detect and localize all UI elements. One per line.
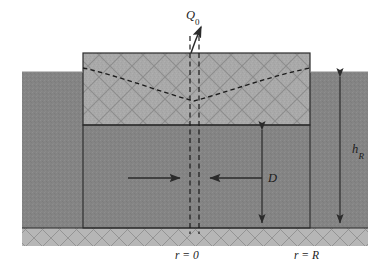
label-discharge-subscript: 0 [195, 17, 200, 27]
bedrock-layer [22, 228, 368, 246]
upper-reservoir-block [83, 53, 310, 125]
cross-section-drawing [0, 0, 391, 273]
label-radius-center: r = 0 [175, 250, 199, 262]
label-discharge-base: Q [186, 8, 195, 22]
label-reservoir-height-hr: hR [352, 143, 364, 159]
label-hr-subscript: R [358, 151, 364, 161]
label-radius-outer: r = R [294, 250, 319, 262]
aquifer-cross-section-figure: Q0 hR D r = 0 r = R [0, 0, 391, 273]
label-aquifer-thickness-d: D [268, 172, 277, 185]
label-discharge-q0: Q0 [186, 9, 200, 25]
